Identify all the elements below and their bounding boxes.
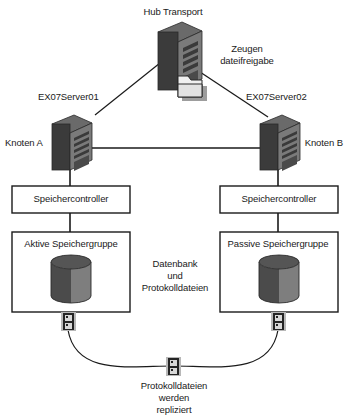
connector-center	[166, 357, 181, 376]
middle-note-line2: und	[132, 270, 218, 282]
witness-file-share-folder	[178, 76, 207, 101]
connector-right	[271, 312, 286, 331]
connector-left	[61, 312, 76, 331]
database-cylinder-passive	[259, 255, 299, 303]
cluster-diagram: Hub Transport Zeugen dateifreigabe EX07S…	[0, 0, 348, 420]
edge-hub-to-node-a	[95, 63, 160, 115]
bottom-note-line1: Protokolldateien	[124, 380, 224, 392]
folder-front-flap	[178, 84, 202, 97]
storage-controller-right-label: Speichercontroller	[220, 193, 338, 205]
server-front-face	[158, 32, 178, 90]
cylinder-top	[51, 255, 91, 269]
bottom-note-line3: repliziert	[124, 404, 224, 416]
middle-note-line1: Datenbank	[132, 258, 218, 270]
witness-share-label-line1: Zeugen	[204, 43, 290, 55]
connection-lines	[68, 63, 278, 367]
storage-controller-left-label: Speichercontroller	[12, 193, 130, 205]
server-right-label: EX07Server02	[246, 91, 307, 103]
hub-transport-label: Hub Transport	[118, 6, 228, 18]
node-left-label: Knoten A	[5, 137, 43, 149]
node-a-server	[52, 115, 92, 171]
server-left-label: EX07Server01	[38, 91, 99, 103]
witness-share-label-line2: dateifreigabe	[196, 55, 298, 67]
node-right-label: Knoten B	[243, 137, 343, 149]
cylinder-top	[259, 255, 299, 269]
storage-group-active-label: Aktive Speichergruppe	[12, 238, 130, 250]
middle-note-line3: Protokolldateien	[126, 282, 224, 294]
bottom-note-line2: werden	[124, 392, 224, 404]
storage-group-passive-label: Passive Speichergruppe	[219, 238, 337, 250]
database-cylinder-active	[51, 255, 91, 303]
server-front-face	[52, 124, 70, 170]
